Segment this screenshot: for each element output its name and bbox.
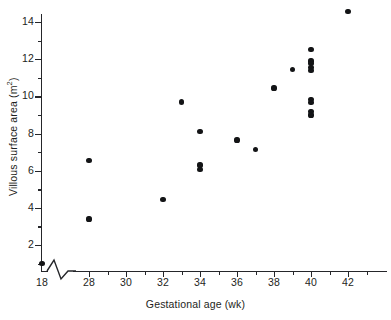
y-tick-major — [35, 245, 42, 246]
y-tick-major — [35, 59, 42, 60]
y-axis-title-tail: ) — [7, 77, 19, 81]
y-tick-major — [35, 134, 42, 135]
x-tick-label: 38 — [261, 276, 287, 288]
x-axis-title: Gestational age (wk) — [0, 298, 391, 310]
y-tick-minor — [38, 78, 42, 79]
y-tick-major — [35, 171, 42, 172]
scatter-plot-figure: 2468101214182830323436384042 Gestational… — [0, 0, 391, 320]
x-tick-minor — [330, 271, 331, 275]
y-tick-minor — [38, 41, 42, 42]
x-tick-minor — [182, 271, 183, 275]
x-axis-line-right — [73, 271, 387, 272]
data-point — [39, 261, 44, 266]
data-point — [179, 99, 184, 104]
x-tick-minor — [108, 271, 109, 275]
data-point — [160, 197, 165, 202]
y-tick-label: 14 — [10, 15, 34, 27]
data-point — [197, 129, 202, 134]
x-tick-label: 28 — [76, 276, 102, 288]
y-tick-minor — [38, 152, 42, 153]
x-tick-minor — [256, 271, 257, 275]
y-axis-title: Villous surface area (m2) — [5, 39, 19, 235]
x-tick-minor — [219, 271, 220, 275]
y-tick-label: 2 — [10, 238, 34, 250]
x-tick-label: 34 — [187, 276, 213, 288]
y-tick-minor — [38, 189, 42, 190]
y-tick-major — [35, 208, 42, 209]
data-point — [308, 47, 313, 52]
data-point — [345, 9, 350, 14]
x-tick-minor — [367, 271, 368, 275]
data-point — [290, 67, 295, 72]
data-point — [234, 137, 239, 142]
y-tick-minor — [38, 226, 42, 227]
data-point — [86, 216, 91, 221]
data-point — [308, 68, 313, 73]
x-tick-label: 42 — [335, 276, 361, 288]
x-tick-minor — [293, 271, 294, 275]
data-point — [308, 100, 313, 105]
x-tick-label: 32 — [150, 276, 176, 288]
x-tick-minor — [145, 271, 146, 275]
data-point — [253, 147, 258, 152]
y-axis-title-main: Villous surface area (m — [7, 85, 19, 196]
y-tick-major — [35, 96, 42, 97]
y-axis-line — [41, 14, 42, 272]
data-point — [271, 85, 276, 90]
data-point — [308, 112, 313, 117]
y-axis-title-superscript: 2 — [5, 81, 14, 85]
x-tick-label: 18 — [29, 276, 55, 288]
x-tick-label: 40 — [298, 276, 324, 288]
data-point — [197, 167, 202, 172]
y-tick-minor — [38, 115, 42, 116]
x-tick-label: 36 — [224, 276, 250, 288]
x-tick-label: 30 — [113, 276, 139, 288]
data-point — [86, 158, 91, 163]
y-tick-major — [35, 22, 42, 23]
